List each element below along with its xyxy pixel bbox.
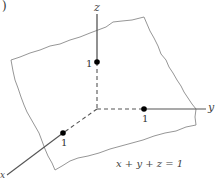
y-axis-label: y bbox=[207, 101, 215, 114]
panel-label: ) bbox=[2, 0, 7, 13]
y-intercept-point bbox=[141, 106, 147, 112]
y-tick-label: 1 bbox=[142, 113, 148, 124]
x-axis-label: x bbox=[0, 170, 5, 178]
z-axis-label: z bbox=[93, 1, 100, 14]
x-tick-label: 1 bbox=[61, 137, 67, 148]
z-intercept-point bbox=[94, 59, 100, 65]
plane-equation: x + y + z = 1 bbox=[116, 158, 183, 169]
x-axis-dashed bbox=[63, 109, 97, 133]
plane-diagram: ) z y x 1 1 1 x + y + z = 1 bbox=[0, 0, 218, 178]
x-intercept-point bbox=[60, 130, 66, 136]
plane-boundary bbox=[11, 17, 196, 170]
z-tick-label: 1 bbox=[86, 58, 92, 69]
